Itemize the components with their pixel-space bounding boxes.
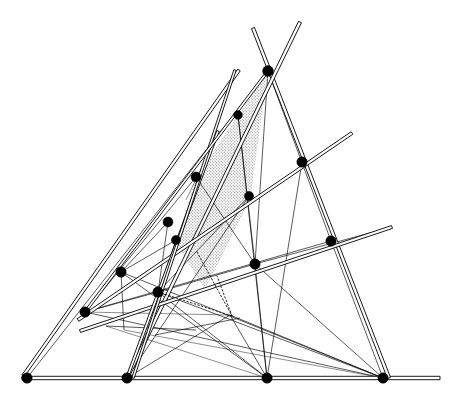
node-left-upper-inner-node <box>171 235 180 244</box>
node-right-mid-node <box>326 236 336 246</box>
node-bottom-third-point <box>262 373 272 383</box>
node-left-upper-node <box>163 217 173 227</box>
node-central-lower-node <box>153 287 163 297</box>
node-upper-inner-node <box>234 111 243 120</box>
baseline-rod <box>22 376 440 379</box>
geometry-canvas <box>0 0 463 404</box>
node-left-lower-node <box>80 307 90 317</box>
node-right-upper-node <box>297 157 307 167</box>
node-apex-crossing-node <box>263 66 274 77</box>
geometry-figure <box>0 0 463 404</box>
node-bottom-second-point <box>122 373 132 383</box>
node-left-mid-node <box>116 267 126 277</box>
baseline-rod-fill <box>22 376 440 379</box>
node-mid-right-node <box>244 191 253 200</box>
node-bottom-left-vertex <box>22 373 32 383</box>
node-center-right-node <box>250 259 260 269</box>
node-bottom-right-vertex <box>378 373 388 383</box>
node-upper-left-node <box>191 172 201 182</box>
